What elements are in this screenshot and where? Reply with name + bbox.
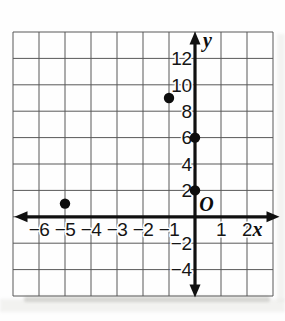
- scan-shadow-frame: [24, 297, 270, 303]
- data-point: [60, 198, 70, 208]
- x-axis-letter: x: [252, 218, 263, 240]
- y-axis-letter: y: [201, 29, 212, 52]
- data-point: [190, 132, 200, 142]
- scanned-figure-page: 12108642−2−4−6−5−4−3−2−112 y x O: [0, 0, 285, 321]
- x-tick-label: −6: [29, 219, 50, 240]
- x-tick-label: 1: [216, 219, 226, 240]
- x-tick-label: −2: [133, 219, 154, 240]
- x-tick-label: −4: [81, 219, 103, 240]
- y-tick-label: 4: [181, 154, 192, 175]
- y-tick-label: 8: [181, 101, 191, 122]
- y-tick-label: −4: [171, 259, 193, 280]
- x-tick-label: 2: [242, 219, 252, 240]
- x-tick-label: −1: [159, 219, 180, 240]
- x-tick-label: −5: [55, 219, 76, 240]
- scan-edge-right: [277, 34, 285, 302]
- y-tick-label: 10: [171, 75, 191, 96]
- coordinate-plane-figure: 12108642−2−4−6−5−4−3−2−112 y x O: [0, 0, 285, 321]
- data-point: [164, 93, 174, 103]
- origin-label: O: [199, 193, 213, 215]
- x-tick-label: −3: [107, 219, 128, 240]
- y-tick-label: 12: [171, 48, 191, 69]
